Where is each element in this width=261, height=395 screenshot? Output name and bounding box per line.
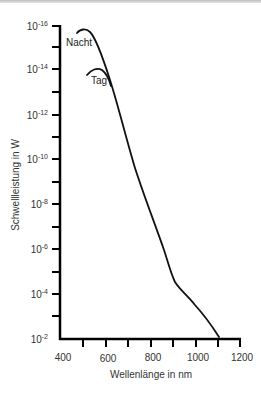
- svg-text:10-2: 10-2: [31, 333, 48, 345]
- x-axis-title: Wellenlänge in nm: [110, 369, 192, 380]
- svg-text:1200: 1200: [231, 352, 254, 363]
- svg-text:10-12: 10-12: [27, 109, 48, 121]
- axes: [59, 25, 241, 340]
- x-tick-labels: 400 600 800 1000 1200: [55, 352, 254, 364]
- svg-text:10-6: 10-6: [31, 243, 48, 255]
- svg-text:10-10: 10-10: [27, 153, 48, 165]
- svg-text:10-14: 10-14: [27, 63, 48, 75]
- nacht-label: Nacht: [66, 37, 92, 48]
- tag-label: Tag: [91, 75, 107, 86]
- svg-text:800: 800: [145, 352, 162, 363]
- svg-text:10-4: 10-4: [31, 288, 48, 300]
- svg-text:10-8: 10-8: [31, 198, 48, 210]
- svg-text:600: 600: [100, 353, 117, 364]
- svg-text:400: 400: [55, 352, 72, 363]
- svg-text:1000: 1000: [187, 352, 210, 363]
- threshold-power-chart: 10-16 10-14 10-12 10-10 10-8 10-6 10-4 1…: [0, 0, 261, 395]
- y-tick-labels: 10-16 10-14 10-12 10-10 10-8 10-6 10-4 1…: [27, 20, 48, 345]
- y-axis-title: Schwellleistung in W: [10, 139, 21, 231]
- svg-text:10-16: 10-16: [27, 20, 48, 32]
